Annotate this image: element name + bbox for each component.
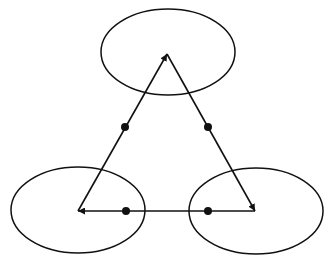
midpoint-dots: [121, 123, 212, 215]
node-ellipse-top: [101, 9, 235, 95]
nodes: [11, 9, 323, 254]
edges: [78, 54, 255, 211]
diagram-canvas: [0, 0, 330, 261]
edge-arrow-bottom-left-to-top: [78, 54, 167, 211]
dot-icon: [121, 123, 129, 131]
edge-arrow-top-to-bottom-right: [167, 54, 255, 211]
dot-icon: [204, 123, 212, 131]
dot-icon: [122, 207, 130, 215]
dot-icon: [204, 207, 212, 215]
triangle-cycle-diagram: [0, 0, 330, 261]
